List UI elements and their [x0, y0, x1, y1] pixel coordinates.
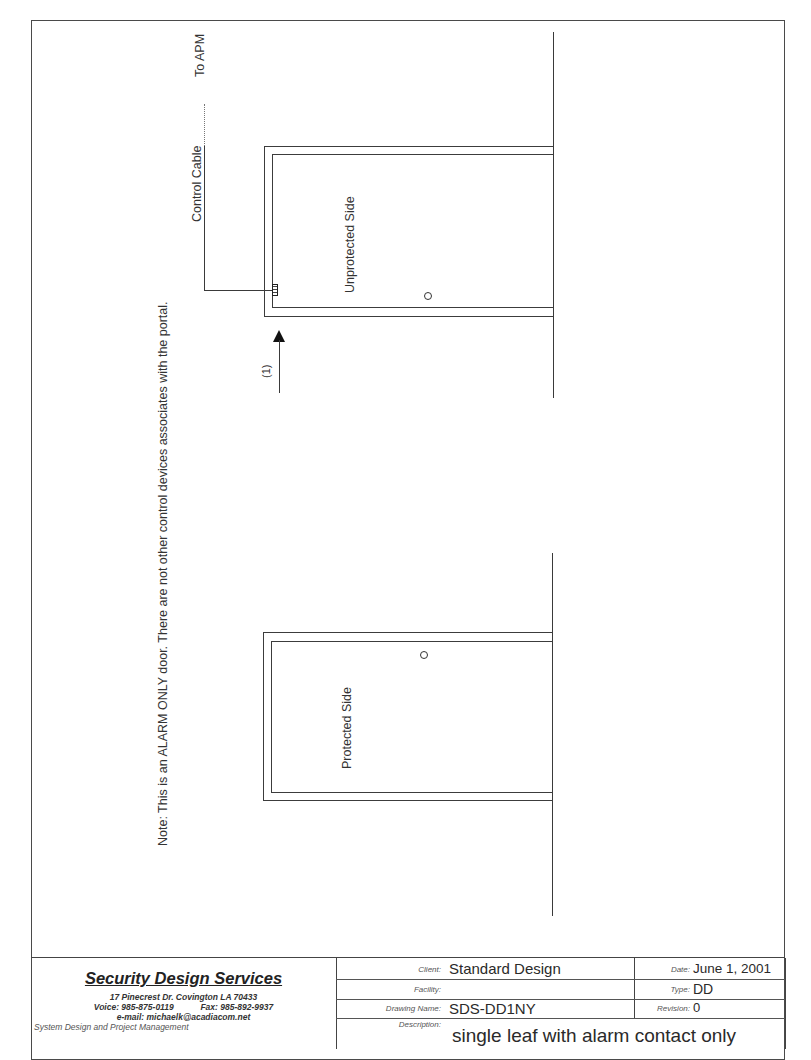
device-callout-label: (1): [260, 365, 272, 378]
to-apm-label: To APM: [193, 34, 207, 77]
row-line-2: [336, 999, 785, 1000]
company-fax: Fax: 985-892-9937: [200, 1002, 273, 1012]
door-frame-inner-lower: [271, 641, 553, 793]
alarm-contact-box-icon: [272, 284, 278, 296]
revision-value: 0: [693, 1000, 700, 1015]
company-address: 17 Pinecrest Dr. Covington LA 70433: [31, 992, 336, 1002]
protected-side-label: Protected Side: [340, 687, 354, 769]
type-value: DD: [693, 981, 713, 997]
row-line-3: [336, 1018, 785, 1019]
title-block-right-border: [785, 958, 786, 1049]
circle-contact-icon: [420, 651, 428, 659]
company-block: Security Design Services 17 Pinecrest Dr…: [31, 958, 336, 1049]
title-block: Security Design Services 17 Pinecrest Dr…: [31, 957, 785, 1049]
cable-dotted-segment: [204, 104, 205, 146]
drawing-note: Note: This is an ALARM ONLY door. There …: [156, 302, 170, 847]
row-line-1: [336, 979, 785, 980]
company-voice: Voice: 985-875-0119: [94, 1002, 174, 1012]
company-name: Security Design Services: [31, 969, 336, 988]
date-value: June 1, 2001: [693, 961, 771, 976]
control-cable-label: Control Cable: [190, 146, 204, 222]
circle-contact-icon: [424, 292, 432, 300]
company-tagline: System Design and Project Management: [31, 1022, 336, 1032]
description-value: single leaf with alarm contact only: [452, 1025, 736, 1047]
company-email: e-mail: michaelk@acadiacom.net: [31, 1012, 336, 1022]
client-value: Standard Design: [449, 960, 561, 977]
type-label: Type:: [634, 985, 690, 994]
door-frame-inner-upper: [272, 154, 554, 308]
company-phone-fax: Voice: 985-875-0119 Fax: 985-892-9937: [31, 1002, 336, 1012]
drawing-name-value: SDS-DD1NY: [449, 1000, 536, 1017]
revision-label: Revision:: [634, 1004, 690, 1013]
date-label: Date:: [634, 965, 690, 974]
unprotected-side-label: Unprotected Side: [343, 196, 357, 293]
callout-arrow-shaft: [279, 340, 280, 393]
facility-label: Facility:: [336, 985, 441, 994]
drawing-name-label: Drawing Name:: [336, 1004, 441, 1013]
client-label: Client:: [336, 965, 441, 974]
control-cable-vertical: [204, 146, 205, 291]
description-label: Description:: [336, 1020, 441, 1029]
